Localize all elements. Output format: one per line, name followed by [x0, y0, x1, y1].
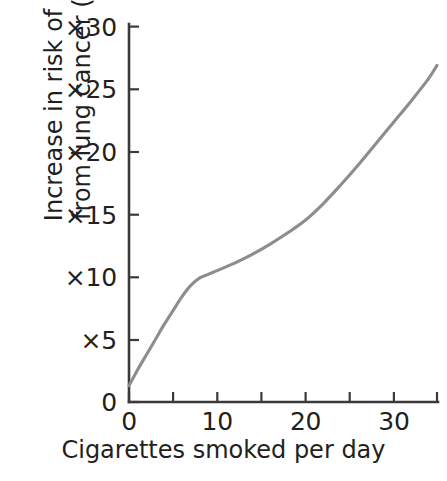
risk-curve-line	[129, 65, 437, 385]
y-axis-title: Increase in risk of dying from lung canc…	[41, 0, 97, 243]
x-tick-label-30: 30	[378, 409, 409, 434]
y-tick-label-0: 0	[101, 390, 117, 415]
x-tick-label-0: 0	[121, 409, 137, 434]
x-axis-ticks	[129, 392, 437, 402]
lung-cancer-risk-chart: ×30 ×25 ×20 ×15 ×10 ×5 0 0 10 20 30 Ciga…	[0, 0, 447, 481]
y-axis-title-line2: from lung cancer (men)	[69, 0, 97, 243]
axis-lines	[129, 24, 438, 402]
x-tick-label-10: 10	[202, 409, 233, 434]
x-axis-title: Cigarettes smoked per day	[0, 436, 447, 464]
y-tick-label-10: ×10	[65, 265, 117, 290]
y-tick-label-5: ×5	[81, 328, 117, 353]
y-axis-ticks	[129, 27, 139, 402]
y-axis-title-line1: Increase in risk of dying	[41, 0, 69, 243]
x-tick-label-20: 20	[290, 409, 321, 434]
